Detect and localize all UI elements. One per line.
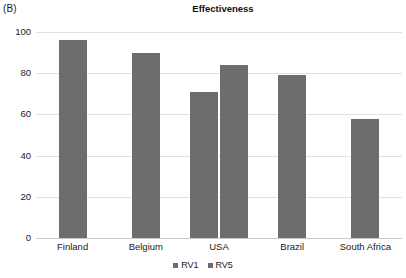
bar-rv1-south-africa[interactable]: [351, 119, 379, 238]
chart-title: Effectiveness: [40, 3, 406, 15]
y-tick-label-0: 0: [26, 233, 31, 243]
bar-group: [36, 32, 402, 238]
x-axis-labels: FinlandBelgiumUSABrazilSouth Africa: [36, 240, 402, 256]
x-tick-label-usa: USA: [209, 240, 229, 254]
x-tick-label-brazil: Brazil: [280, 240, 304, 254]
x-tick-label-finland: Finland: [57, 240, 88, 254]
gridline-0: [36, 238, 402, 239]
panel-label: (B): [3, 3, 17, 15]
x-tick-label-south-africa: South Africa: [340, 240, 391, 254]
legend-swatch-icon: [173, 263, 178, 268]
chart-legend: RV1RV5: [0, 260, 406, 271]
legend-swatch-icon: [208, 263, 213, 268]
legend-label: RV5: [216, 260, 233, 271]
y-tick-label-100: 100: [15, 27, 31, 37]
x-tick-label-belgium: Belgium: [129, 240, 163, 254]
legend-item-rv1[interactable]: RV1: [173, 260, 198, 271]
legend-item-rv5[interactable]: RV5: [208, 260, 233, 271]
chart-figure: (B) Effectiveness 020406080100 FinlandBe…: [0, 0, 406, 278]
plot-area: 020406080100: [36, 32, 402, 238]
y-tick-label-60: 60: [20, 109, 31, 119]
bars-layer: [36, 32, 402, 238]
y-tick-label-40: 40: [20, 151, 31, 161]
y-tick-label-20: 20: [20, 192, 31, 202]
y-tick-label-80: 80: [20, 68, 31, 78]
legend-label: RV1: [181, 260, 198, 271]
